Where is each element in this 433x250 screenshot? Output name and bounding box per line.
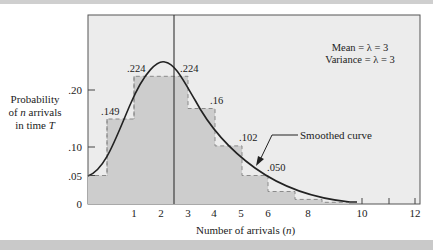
- bar-4: [188, 109, 215, 205]
- bar-label-4: .16: [210, 95, 223, 106]
- xtick-5: 5: [238, 207, 244, 219]
- variance-text: Variance = λ = 3: [318, 54, 402, 66]
- y-axis-title-line3: in time T: [0, 119, 70, 132]
- xtick-1: 1: [131, 207, 137, 219]
- y-axis-title: Probability of n arrivals in time T: [0, 93, 70, 132]
- x-axis-title: Number of arrivals (n): [196, 224, 295, 236]
- ytick-05: .05: [68, 170, 82, 182]
- bar-label-5: .102: [239, 132, 257, 143]
- ytick-20: .20: [68, 84, 82, 96]
- bar-label-3: .224: [180, 63, 199, 74]
- xtick-6: 6: [265, 207, 271, 219]
- bar-8: [295, 199, 322, 204]
- x-tick-labels: 1 2 3 4 5 6 8 10 12: [131, 207, 420, 219]
- smoothed-curve-label: Smoothed curve: [300, 129, 372, 141]
- bar-0: [88, 176, 107, 205]
- bar-label-1: .149: [101, 106, 119, 117]
- y-axis-title-line2: of n arrivals: [0, 106, 70, 119]
- xtick-4: 4: [211, 207, 217, 219]
- bar-label-6: .050: [267, 162, 285, 173]
- page-bottom-band: [0, 240, 433, 250]
- y-axis-title-line1: Probability: [0, 93, 70, 106]
- stats-annotation: Mean = λ = 3 Variance = λ = 3: [318, 42, 402, 66]
- xtick-3: 3: [185, 207, 191, 219]
- bar-2: [134, 76, 161, 204]
- xtick-10: 10: [357, 207, 369, 219]
- ytick-0: 0: [77, 198, 83, 210]
- bar-6: [242, 176, 268, 205]
- bar-label-2: .224: [127, 63, 146, 74]
- xtick-2: 2: [158, 207, 164, 219]
- xtick-12: 12: [410, 207, 421, 219]
- ytick-10: .10: [68, 141, 82, 153]
- bar-1: [107, 119, 134, 204]
- mean-text: Mean = λ = 3: [318, 42, 402, 54]
- xtick-8: 8: [305, 207, 311, 219]
- bar-7: [268, 192, 295, 205]
